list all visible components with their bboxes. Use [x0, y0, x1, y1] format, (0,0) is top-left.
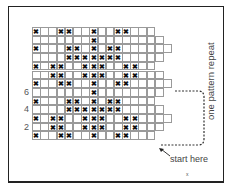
repeat-bracket-icon — [0, 0, 233, 193]
repeat-label: one pattern repeat — [205, 42, 216, 120]
start-label: start here — [170, 154, 208, 164]
footnote-mark: x — [186, 171, 189, 177]
